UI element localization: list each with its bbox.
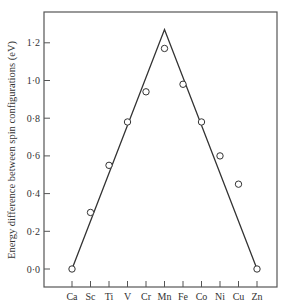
trend-line: [72, 30, 257, 269]
x-tick-label: Ca: [66, 291, 78, 302]
x-tick-label: Ni: [215, 291, 225, 302]
data-point: [180, 81, 186, 87]
y-tick-label: 1·0: [27, 75, 40, 86]
trend-polyline: [72, 30, 257, 269]
y-tick-label: 0·0: [27, 264, 40, 275]
chart: 0·00·20·40·60·81·01·2 CaScTiVCrMnFeCoNiC…: [0, 0, 285, 307]
x-tick-label: Cr: [141, 291, 152, 302]
y-tick-label: 0·6: [27, 150, 40, 161]
x-tick-label: Sc: [86, 291, 97, 302]
x-tick-label: Mn: [158, 291, 172, 302]
plot-frame: [44, 12, 277, 287]
data-point: [143, 89, 149, 95]
data-point: [235, 181, 241, 187]
data-point: [106, 162, 112, 168]
y-tick-label: 0·8: [27, 113, 40, 124]
data-points: [69, 45, 260, 272]
x-tick-label: Zn: [251, 291, 262, 302]
y-tick-label: 0·4: [27, 188, 40, 199]
y-axis-label: Energy difference between spin configura…: [6, 41, 18, 259]
data-point: [69, 266, 75, 272]
data-point: [87, 209, 93, 215]
data-point: [198, 119, 204, 125]
y-axis: 0·00·20·40·60·81·01·2: [27, 37, 50, 274]
x-tick-label: Cu: [233, 291, 245, 302]
data-point: [217, 153, 223, 159]
x-tick-label: V: [124, 291, 132, 302]
y-tick-label: 0·2: [27, 226, 40, 237]
x-axis: CaScTiVCrMnFeCoNiCuZn: [66, 281, 262, 302]
x-tick-label: Fe: [178, 291, 189, 302]
y-tick-label: 1·2: [27, 37, 40, 48]
x-tick-label: Co: [196, 291, 208, 302]
data-point: [161, 45, 167, 51]
data-point: [124, 119, 130, 125]
x-tick-label: Ti: [105, 291, 114, 302]
data-point: [254, 266, 260, 272]
